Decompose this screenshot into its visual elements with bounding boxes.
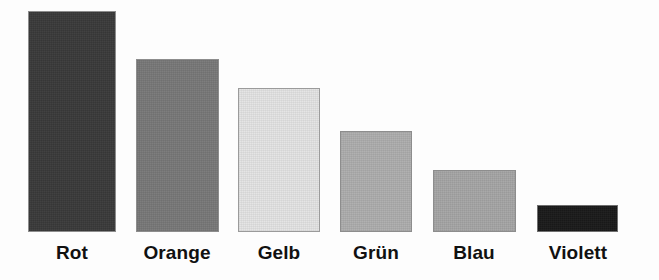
category-axis-labels: Rot Orange Gelb Grün Blau Violett [0, 232, 659, 280]
bar-group-violett[interactable] [537, 205, 618, 232]
bar-chart: Rot Orange Gelb Grün Blau Violett [0, 0, 659, 280]
bar-violett[interactable] [537, 205, 618, 232]
bar-label-violett: Violett [518, 241, 638, 265]
bar-rot[interactable] [28, 11, 116, 232]
bar-gelb[interactable] [238, 88, 320, 232]
chart-plot-area [0, 0, 659, 232]
bar-label-blau: Blau [414, 241, 534, 265]
bar-group-rot[interactable] [28, 11, 116, 232]
bar-group-gelb[interactable] [238, 88, 320, 232]
bar-gruen[interactable] [340, 131, 412, 232]
bar-orange[interactable] [136, 59, 219, 232]
bar-group-orange[interactable] [136, 59, 219, 232]
bar-label-rot: Rot [12, 241, 132, 265]
bar-group-gruen[interactable] [340, 131, 412, 232]
bar-blau[interactable] [433, 170, 516, 232]
bar-group-blau[interactable] [433, 170, 516, 232]
